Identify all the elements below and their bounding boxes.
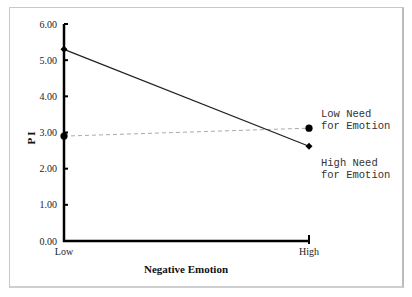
legend-low-line1: Low Need — [321, 108, 371, 120]
y-tick-label: 4.00 — [40, 91, 58, 102]
line-chart: 0.001.002.003.004.005.006.00 Low High Ne… — [0, 0, 412, 297]
x-tick-high: High — [299, 246, 319, 257]
circle-marker — [60, 133, 67, 140]
y-tick-label: 2.00 — [40, 163, 58, 174]
y-tick-label: 3.00 — [40, 127, 58, 138]
y-tick-label: 6.00 — [40, 19, 58, 30]
x-tick-low: Low — [55, 246, 74, 257]
legend-low-line2: for Emotion — [321, 120, 390, 132]
x-axis-title: Negative Emotion — [144, 263, 228, 275]
y-tick-label: 5.00 — [40, 55, 58, 66]
diamond-marker — [61, 46, 68, 53]
y-tick-label: 1.00 — [40, 199, 58, 210]
diamond-marker — [306, 143, 313, 150]
circle-marker — [305, 125, 312, 132]
y-axis-title: P I — [25, 131, 37, 144]
y-tick-label: 0.00 — [40, 236, 58, 247]
legend-high-line2: for Emotion — [321, 169, 390, 181]
legend-high-line1: High Need — [321, 157, 378, 169]
